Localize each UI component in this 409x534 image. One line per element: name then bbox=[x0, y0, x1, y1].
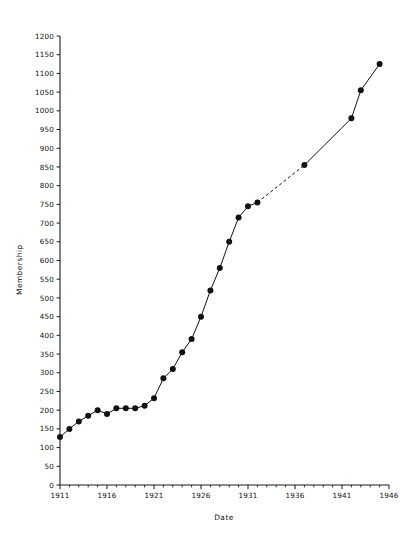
data-point-marker bbox=[123, 405, 129, 411]
data-point-marker bbox=[236, 214, 242, 220]
data-point-marker bbox=[151, 395, 157, 401]
y-axis-tick-label: 150 bbox=[40, 424, 54, 433]
y-axis-tick-label: 100 bbox=[40, 443, 54, 452]
x-axis-tick-label: 1921 bbox=[145, 491, 164, 500]
data-point-marker bbox=[95, 407, 101, 413]
y-axis-tick-label: 350 bbox=[40, 350, 54, 359]
y-axis-tick-label: 500 bbox=[40, 294, 54, 303]
data-point-markers bbox=[57, 61, 383, 440]
x-axis-tick-label: 1941 bbox=[333, 491, 352, 500]
y-axis-tick-label: 550 bbox=[40, 275, 54, 284]
data-point-marker bbox=[358, 87, 364, 93]
data-point-marker bbox=[217, 265, 223, 271]
x-axis-tick-labels: 19111916192119261931193619411946 bbox=[51, 491, 399, 500]
series-line-solid-early bbox=[60, 203, 257, 438]
data-series-group bbox=[57, 61, 383, 440]
y-axis-tick-label: 1000 bbox=[35, 106, 54, 115]
series-line-solid-late bbox=[304, 64, 379, 165]
x-axis-tick-label: 1926 bbox=[192, 491, 211, 500]
data-point-marker bbox=[377, 61, 383, 67]
data-point-marker bbox=[348, 115, 354, 121]
x-axis-tick-label: 1931 bbox=[239, 491, 258, 500]
data-point-marker bbox=[170, 366, 176, 372]
series-line-dashed-gap bbox=[257, 165, 304, 202]
y-axis-tick-labels: 0501001502002503003504004505005506006507… bbox=[35, 32, 54, 490]
data-point-marker bbox=[104, 411, 110, 417]
y-axis-title: Membership bbox=[15, 244, 24, 295]
data-point-marker bbox=[132, 405, 138, 411]
y-axis-tick-label: 300 bbox=[40, 368, 54, 377]
data-point-marker bbox=[113, 405, 119, 411]
x-axis-tick-group bbox=[60, 485, 389, 489]
y-axis-tick-label: 1100 bbox=[35, 69, 54, 78]
data-point-marker bbox=[198, 314, 204, 320]
chart-container: 0501001502002503003504004505005506006507… bbox=[0, 0, 409, 534]
data-point-marker bbox=[160, 375, 166, 381]
y-axis-tick-label: 700 bbox=[40, 219, 54, 228]
x-axis-tick-label: 1946 bbox=[380, 491, 399, 500]
y-axis-tick-label: 0 bbox=[49, 481, 54, 490]
y-axis-tick-label: 1200 bbox=[35, 32, 54, 41]
data-point-marker bbox=[179, 349, 185, 355]
y-axis-tick-label: 800 bbox=[40, 181, 54, 190]
data-point-marker bbox=[57, 434, 63, 440]
x-axis-tick-label: 1916 bbox=[98, 491, 117, 500]
y-axis-tick-label: 900 bbox=[40, 144, 54, 153]
y-axis-tick-label: 650 bbox=[40, 237, 54, 246]
y-axis-tick-label: 1050 bbox=[35, 88, 54, 97]
data-point-marker bbox=[85, 413, 91, 419]
axis-lines bbox=[60, 36, 389, 485]
data-point-marker bbox=[76, 418, 82, 424]
y-axis-tick-label: 50 bbox=[45, 462, 55, 471]
y-axis-tick-label: 750 bbox=[40, 200, 54, 209]
data-point-marker bbox=[301, 162, 307, 168]
y-axis-tick-label: 950 bbox=[40, 125, 54, 134]
x-axis-title: Date bbox=[214, 513, 234, 522]
y-axis-tick-label: 450 bbox=[40, 312, 54, 321]
membership-line-chart: 0501001502002503003504004505005506006507… bbox=[0, 0, 409, 534]
y-axis-tick-label: 250 bbox=[40, 387, 54, 396]
y-axis-tick-label: 850 bbox=[40, 163, 54, 172]
x-axis-tick-label: 1911 bbox=[51, 491, 70, 500]
y-axis-tick-label: 400 bbox=[40, 331, 54, 340]
y-axis-tick-label: 600 bbox=[40, 256, 54, 265]
data-point-marker bbox=[254, 200, 260, 206]
data-point-marker bbox=[189, 336, 195, 342]
x-axis-tick-label: 1936 bbox=[286, 491, 305, 500]
data-point-marker bbox=[66, 426, 72, 432]
data-point-marker bbox=[245, 203, 251, 209]
data-point-marker bbox=[142, 403, 148, 409]
data-point-marker bbox=[226, 239, 232, 245]
y-axis-tick-label: 1150 bbox=[35, 50, 54, 59]
y-axis-tick-label: 200 bbox=[40, 406, 54, 415]
data-point-marker bbox=[207, 287, 213, 293]
